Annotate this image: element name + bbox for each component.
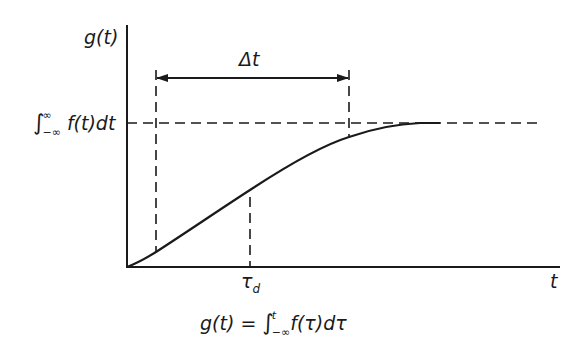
diagram-canvas xyxy=(0,0,587,350)
response-curve xyxy=(127,123,440,267)
formula-integrand: f(τ)dτ xyxy=(290,312,346,334)
delay-label-sub: d xyxy=(252,282,260,296)
formula-upper-limit: t xyxy=(272,310,290,321)
lower-limit: −∞ xyxy=(42,127,60,138)
formula-limits: t−∞ xyxy=(272,310,290,338)
interval-label: Δt xyxy=(239,50,259,69)
asymptote-label: ∫∞−∞ f(t)dt xyxy=(33,110,115,138)
delay-label-main: τ xyxy=(241,270,252,292)
y-axis-label-text: g(t) xyxy=(84,26,118,48)
interval-label-text: Δt xyxy=(239,48,259,70)
y-axis-label: g(t) xyxy=(84,28,118,47)
x-axis-label-text: t xyxy=(550,270,557,292)
delay-label: τd xyxy=(241,272,260,291)
x-axis-label: t xyxy=(550,272,557,291)
integral-limits: ∞−∞ xyxy=(42,110,60,138)
formula-lower-limit: −∞ xyxy=(272,327,290,338)
integrand: f(t)dt xyxy=(67,112,115,134)
formula: g(t) = ∫t−∞f(τ)dτ xyxy=(200,310,347,338)
upper-limit: ∞ xyxy=(42,110,60,121)
formula-lhs: g(t) = xyxy=(200,312,262,334)
